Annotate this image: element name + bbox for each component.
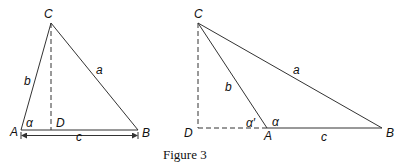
- angle-label-alpha: α: [272, 115, 280, 129]
- side-label-c: c: [321, 130, 327, 144]
- vertex-label-a: A: [263, 129, 272, 143]
- side-label-c: c: [76, 130, 82, 144]
- side-label-b: b: [225, 80, 232, 94]
- left-triangle: [21, 23, 138, 139]
- right-triangle: [198, 23, 382, 128]
- side-a-line: [51, 23, 138, 130]
- vertex-label-c: C: [44, 7, 53, 21]
- figure-3: C A B D b a c α C D A B b a c α′ α Figur…: [0, 0, 402, 166]
- vertex-label-d: D: [184, 126, 193, 140]
- vertex-label-b: B: [386, 126, 394, 140]
- side-a-line: [198, 23, 382, 128]
- vertex-label-a: A: [9, 125, 18, 139]
- vertex-label-d: D: [56, 116, 65, 130]
- angle-label-alpha-prime: α′: [246, 116, 256, 130]
- side-label-a: a: [293, 63, 300, 77]
- figure-caption: Figure 3: [163, 147, 207, 162]
- angle-label-alpha: α: [26, 116, 34, 130]
- vertex-label-c: C: [194, 7, 203, 21]
- side-b-line: [198, 23, 267, 128]
- triangle-diagrams: C A B D b a c α C D A B b a c α′ α Figur…: [0, 0, 402, 166]
- vertex-label-b: B: [142, 126, 150, 140]
- side-label-a: a: [96, 63, 103, 77]
- side-label-b: b: [24, 74, 31, 88]
